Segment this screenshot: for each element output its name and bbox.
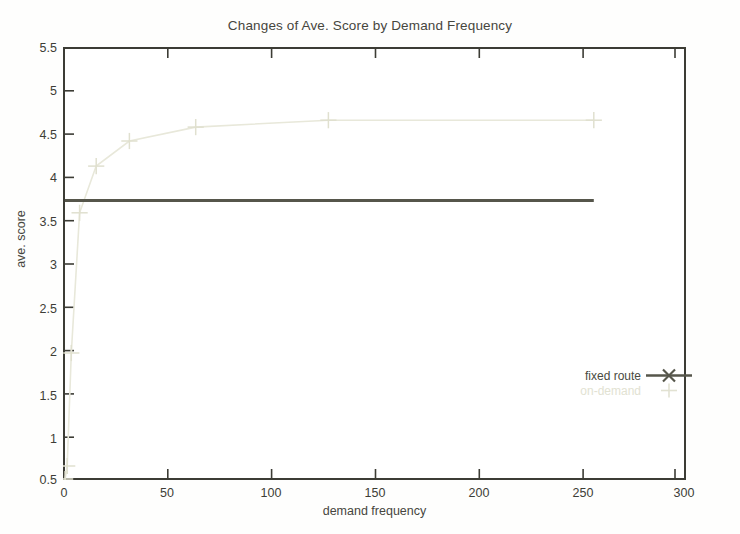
plot-canvas — [63, 47, 686, 480]
y-tick-4.5: 4.5 — [17, 128, 57, 142]
x-axis-label: demand frequency — [63, 504, 686, 518]
y-axis-tick-labels: 5.5 5 4.5 4 3.5 3 2.5 2 1.5 1 0.5 — [12, 0, 57, 534]
y-tick-5: 5 — [17, 84, 57, 98]
chart-figure: Changes of Ave. Score by Demand Frequenc… — [0, 0, 740, 534]
x-tick-200: 200 — [454, 486, 504, 500]
x-tick-300: 300 — [659, 486, 709, 500]
y-tick-3.5: 3.5 — [17, 215, 57, 229]
legend-marker-plus-icon — [646, 383, 692, 398]
x-axis-tick-labels: 0 50 100 150 200 250 300 — [63, 486, 686, 506]
y-tick-2: 2 — [17, 345, 57, 359]
legend-label-fixed-route: fixed route — [585, 369, 646, 383]
y-tick-0.5: 0.5 — [17, 473, 57, 487]
x-tick-150: 150 — [350, 486, 400, 500]
plot-frame — [64, 48, 685, 479]
legend: fixed route on-demand — [572, 368, 692, 400]
y-tick-1.5: 1.5 — [17, 389, 57, 403]
plot-area — [63, 47, 686, 480]
legend-entry-fixed-route: fixed route — [572, 368, 692, 383]
x-tick-250: 250 — [558, 486, 608, 500]
chart-title: Changes of Ave. Score by Demand Frequenc… — [0, 18, 740, 33]
y-tick-3: 3 — [17, 258, 57, 272]
x-tick-50: 50 — [142, 486, 192, 500]
y-tick-2.5: 2.5 — [17, 302, 57, 316]
y-tick-5.5: 5.5 — [17, 41, 57, 55]
x-tick-100: 100 — [246, 486, 296, 500]
y-tick-1: 1 — [17, 432, 57, 446]
y-tick-4: 4 — [17, 171, 57, 185]
legend-entry-on-demand: on-demand — [572, 383, 692, 398]
legend-marker-x-icon — [646, 368, 692, 383]
legend-label-on-demand: on-demand — [580, 384, 646, 398]
x-tick-0: 0 — [39, 486, 89, 500]
